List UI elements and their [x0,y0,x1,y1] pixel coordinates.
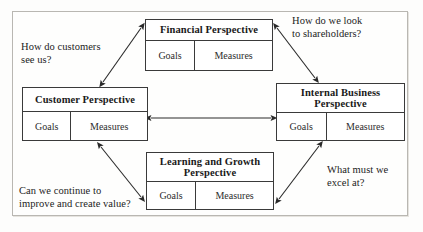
box-customer-measures-cell[interactable]: Measures [71,112,147,140]
box-customer-goals-cell[interactable]: Goals [23,112,71,140]
box-learning-growth-perspective[interactable]: Learning and Growth Perspective Goals Me… [146,152,274,210]
box-financial-measures-cell[interactable]: Measures [195,41,272,70]
caption-learning-growth-question: Can we continue to improve and create va… [19,184,161,211]
balanced-scorecard-diagram: Financial Perspective Goals Measures Cus… [0,0,423,232]
box-customer-perspective[interactable]: Customer Perspective Goals Measures [22,87,148,141]
box-learning-growth-title: Learning and Growth Perspective [147,153,273,182]
box-internal-business-goals-cell[interactable]: Goals [277,113,327,140]
box-financial-cells: Goals Measures [146,41,272,70]
box-financial-perspective[interactable]: Financial Perspective Goals Measures [145,19,273,71]
box-customer-cells: Goals Measures [23,112,147,140]
caption-financial-question: How do we look to shareholders? [292,14,412,41]
box-internal-business-measures-cell[interactable]: Measures [327,113,404,140]
box-internal-business-title: Internal Business Perspective [277,84,404,113]
box-customer-title: Customer Perspective [23,88,147,112]
box-internal-business-cells: Goals Measures [277,113,404,140]
caption-internal-business-question: What must we excel at? [327,163,423,190]
box-internal-business-perspective[interactable]: Internal Business Perspective Goals Meas… [276,83,405,141]
box-learning-growth-cells: Goals Measures [147,182,273,209]
box-learning-growth-measures-cell[interactable]: Measures [196,182,273,209]
caption-customer-question: How do customers see us? [21,40,143,67]
box-financial-title: Financial Perspective [146,20,272,41]
box-financial-goals-cell[interactable]: Goals [146,41,195,70]
